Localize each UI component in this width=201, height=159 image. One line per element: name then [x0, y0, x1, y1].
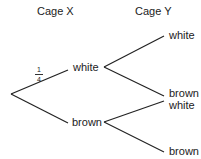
header-cage-x: Cage X [37, 5, 74, 17]
branch-white-brown [104, 67, 164, 96]
branch-brown-brown [104, 122, 164, 152]
header-cage-y: Cage Y [135, 5, 172, 17]
node-y-brown-after-brown: brown [169, 145, 199, 157]
branch-x-brown [11, 94, 68, 123]
branch-brown-white [104, 101, 164, 122]
node-y-brown-after-white: brown [169, 87, 199, 99]
branch-white-white [104, 36, 164, 67]
probability-white-x: 1 4 [35, 66, 43, 83]
node-x-white: white [73, 61, 99, 73]
tree-branches [0, 0, 201, 159]
probability-numerator: 1 [37, 66, 41, 73]
node-y-white-after-brown: white [169, 99, 195, 111]
node-x-brown: brown [72, 116, 102, 128]
probability-denominator: 4 [37, 76, 41, 83]
node-y-white-after-white: white [169, 29, 195, 41]
